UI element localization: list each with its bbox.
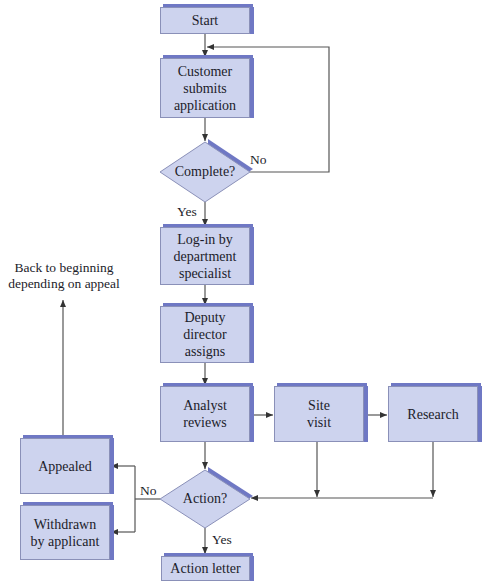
customer-submits-node: Customer submits application	[160, 58, 250, 118]
deputy-node: Deputy director assigns	[160, 306, 250, 363]
action-letter-node: Action letter	[161, 556, 250, 581]
appealed-node: Appealed	[20, 438, 110, 494]
complete-no-label: No	[250, 152, 267, 168]
site-visit-node: Site visit	[274, 386, 364, 442]
research-node: Research	[388, 386, 478, 442]
withdrawn-node: Withdrawn by applicant	[20, 505, 110, 560]
action-yes-label: Yes	[212, 532, 232, 548]
back-to-beginning-note: Back to beginning depending on appeal	[0, 260, 128, 292]
complete-decision-label: Complete?	[160, 160, 250, 184]
analyst-node: Analyst reviews	[160, 386, 250, 442]
login-node: Log-in by department specialist	[160, 227, 250, 285]
complete-yes-label: Yes	[177, 204, 197, 220]
action-decision-label: Action?	[160, 487, 250, 511]
action-no-label: No	[140, 483, 157, 499]
start-node: Start	[160, 7, 250, 34]
